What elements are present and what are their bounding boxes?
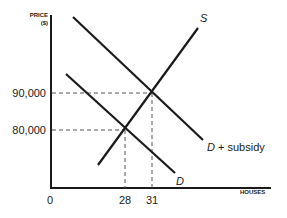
demand-curve: [66, 74, 175, 173]
demand-plus-subsidy-label: D + subsidy: [207, 142, 265, 153]
chart-plot: [0, 0, 287, 218]
supply-label: S: [200, 13, 207, 24]
demand-plus-subsidy-label-d: D: [207, 141, 215, 153]
demand-plus-subsidy-curve: [73, 17, 203, 140]
x-axis-title: HOUSES: [240, 189, 265, 195]
y-tick-80000: 80,000: [12, 125, 46, 136]
x-tick-28: 28: [119, 195, 131, 206]
demand-plus-subsidy-label-rest: + subsidy: [215, 141, 265, 153]
y-axis-title: PRICE ($): [22, 12, 48, 26]
x-tick-31: 31: [146, 195, 158, 206]
supply-curve: [98, 28, 198, 165]
origin-label: 0: [47, 195, 53, 206]
y-axis-title-line2: ($): [22, 20, 48, 26]
y-tick-90000: 90,000: [12, 88, 46, 99]
y-axis-title-line1: PRICE: [22, 12, 48, 18]
demand-label: D: [176, 176, 184, 187]
